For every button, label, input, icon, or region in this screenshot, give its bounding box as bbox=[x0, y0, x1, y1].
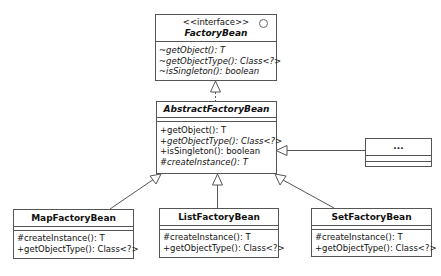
operations-list: +getObject(): T +getObjectType(): Class<… bbox=[157, 122, 276, 169]
realization-arrow bbox=[211, 81, 221, 101]
class-header: AbstractFactoryBean bbox=[157, 102, 276, 118]
operation: +getObject(): T bbox=[160, 125, 273, 136]
operation: #createInstance(): T bbox=[17, 233, 130, 244]
class-name: FactoryBean bbox=[156, 28, 276, 39]
operation: +isSingleton(): boolean bbox=[160, 146, 273, 157]
operation: +getObjectType(): Class<?> bbox=[160, 136, 273, 147]
class-name: MapFactoryBean bbox=[14, 213, 133, 224]
operations-list: #createInstance(): T +getObjectType(): C… bbox=[312, 230, 431, 255]
map-generalization-arrow bbox=[110, 174, 161, 209]
class-name: ... bbox=[366, 141, 431, 152]
operation: ~getObjectType(): Class<?> bbox=[159, 56, 273, 67]
operation: +getObjectType(): Class<?> bbox=[315, 243, 428, 254]
operation: +getObjectType(): Class<?> bbox=[17, 244, 130, 255]
class-other[interactable]: ... bbox=[365, 138, 432, 167]
stereotype-label: <<interface>> bbox=[156, 17, 276, 28]
class-map-factory-bean[interactable]: MapFactoryBean #createInstance(): T +get… bbox=[13, 209, 134, 259]
class-header: ... bbox=[366, 139, 431, 156]
operation: #createInstance(): T bbox=[315, 232, 428, 243]
class-name: SetFactoryBean bbox=[312, 212, 431, 223]
class-set-factory-bean[interactable]: SetFactoryBean #createInstance(): T +get… bbox=[311, 208, 432, 257]
operations-list: #createInstance(): T +getObjectType(): C… bbox=[160, 230, 278, 255]
class-abstract-factory-bean[interactable]: AbstractFactoryBean +getObject(): T +get… bbox=[156, 101, 277, 174]
operation: ~isSingleton(): boolean bbox=[159, 66, 273, 77]
interface-circle-icon bbox=[259, 19, 268, 28]
class-name: AbstractFactoryBean bbox=[157, 104, 276, 115]
operation: #createInstance(): T bbox=[163, 232, 275, 243]
class-header: <<interface>> FactoryBean bbox=[156, 15, 276, 42]
class-factory-bean[interactable]: <<interface>> FactoryBean ~getObject(): … bbox=[155, 14, 277, 81]
operations-list: #createInstance(): T +getObjectType(): C… bbox=[14, 231, 133, 256]
list-generalization-arrow bbox=[213, 174, 223, 208]
attributes-compartment bbox=[366, 156, 431, 162]
class-name: ListFactoryBean bbox=[160, 212, 278, 223]
class-header: SetFactoryBean bbox=[312, 209, 431, 226]
operation: #createInstance(): T bbox=[160, 157, 273, 168]
class-header: MapFactoryBean bbox=[14, 210, 133, 227]
operation: +getObjectType(): Class<?> bbox=[163, 243, 275, 254]
operation: ~getObject(): T bbox=[159, 45, 273, 56]
operations-list: ~getObject(): T ~getObjectType(): Class<… bbox=[156, 42, 276, 79]
set-generalization-arrow bbox=[275, 174, 334, 208]
class-list-factory-bean[interactable]: ListFactoryBean #createInstance(): T +ge… bbox=[159, 208, 279, 258]
class-header: ListFactoryBean bbox=[160, 209, 278, 226]
other-generalization-arrow bbox=[276, 146, 365, 156]
